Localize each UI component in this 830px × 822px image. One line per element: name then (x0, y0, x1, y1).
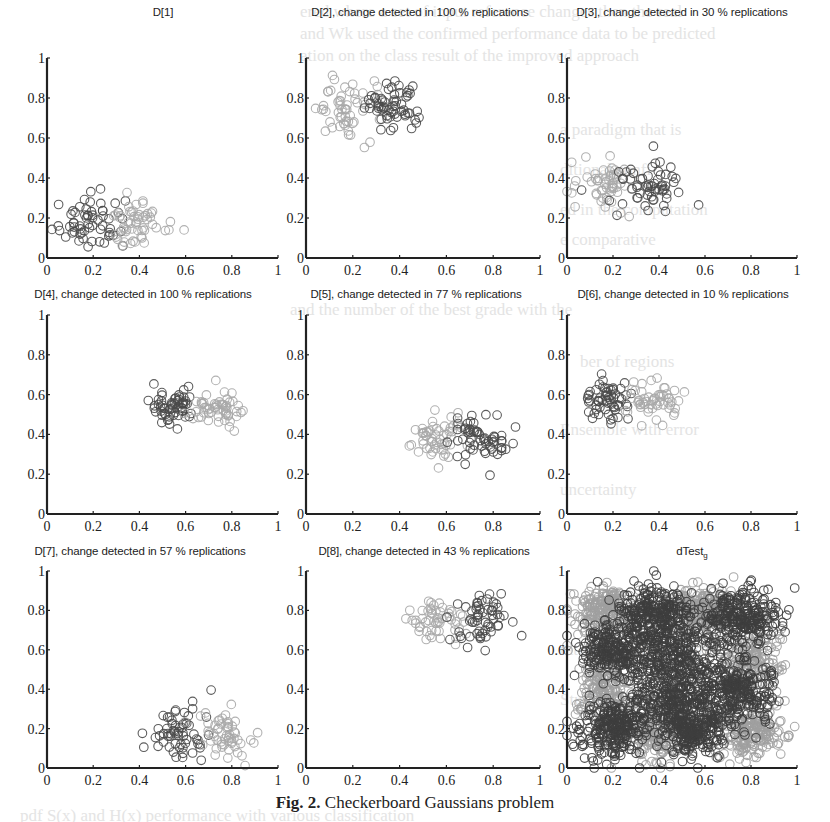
y-tick-label: 1 (297, 51, 304, 66)
x-tick-label: 0.2 (344, 519, 362, 534)
panel-title-d6: D[6], change detected in 10 % replicatio… (577, 288, 788, 300)
x-tick-label: 0.6 (438, 519, 456, 534)
scatter-points (583, 370, 688, 430)
y-tick-label: 0.6 (287, 388, 305, 403)
y-tick-label: 0.2 (28, 722, 46, 737)
y-tick-label: 0.2 (28, 467, 46, 482)
scatter-panel-d5: 00.20.40.60.8100.20.40.60.81 (287, 308, 544, 534)
scatter-points (405, 406, 520, 480)
figure: 00.20.40.60.8100.20.40.60.8100.20.40.60.… (0, 0, 830, 800)
y-tick-label: 0.8 (287, 603, 305, 618)
panel-title-d7: D[7], change detected in 57 % replicatio… (34, 545, 245, 557)
x-tick-label: 0.4 (391, 519, 409, 534)
x-tick-label: 0.6 (177, 263, 195, 278)
x-tick-label: 0.8 (223, 773, 241, 788)
y-tick-label: 0 (297, 507, 304, 522)
x-tick-label: 0.2 (84, 773, 102, 788)
x-tick-label: 0.8 (742, 773, 760, 788)
x-tick-label: 1 (794, 263, 801, 278)
y-tick-label: 1 (558, 308, 565, 323)
y-tick-label: 0.4 (28, 171, 46, 186)
x-tick-label: 1 (537, 263, 544, 278)
x-tick-label: 0.8 (742, 519, 760, 534)
y-tick-label: 0 (38, 507, 45, 522)
y-tick-label: 0.6 (287, 131, 305, 146)
x-tick-label: 1 (275, 263, 282, 278)
y-tick-label: 0.6 (548, 131, 566, 146)
y-tick-label: 0.6 (548, 388, 566, 403)
y-tick-label: 0 (558, 251, 565, 266)
y-tick-label: 0.2 (548, 722, 566, 737)
x-tick-label: 0.8 (223, 519, 241, 534)
y-tick-label: 0 (558, 761, 565, 776)
y-tick-label: 0.2 (548, 211, 566, 226)
scatter-panel-d6: 00.20.40.60.8100.20.40.60.81 (548, 308, 801, 534)
scatter-panel-d7: 00.20.40.60.8100.20.40.60.81 (28, 564, 282, 788)
y-tick-label: 1 (297, 564, 304, 579)
x-tick-label: 0.4 (131, 773, 149, 788)
x-tick-label: 0.6 (696, 519, 714, 534)
y-tick-label: 0.4 (548, 682, 566, 697)
y-tick-label: 0 (38, 761, 45, 776)
y-tick-label: 0.8 (28, 91, 46, 106)
y-tick-label: 0.4 (28, 682, 46, 697)
x-tick-label: 1 (537, 773, 544, 788)
y-tick-label: 0.6 (28, 131, 46, 146)
y-tick-label: 0 (38, 251, 45, 266)
y-tick-label: 0.2 (287, 467, 305, 482)
x-tick-label: 1 (537, 519, 544, 534)
y-tick-label: 0.6 (28, 388, 46, 403)
caption-label: Fig. 2. (276, 793, 321, 812)
x-tick-label: 0.2 (604, 519, 622, 534)
x-tick-label: 1 (794, 519, 801, 534)
y-tick-label: 0.2 (287, 722, 305, 737)
scatter-points (563, 142, 703, 221)
scatter-points (48, 185, 189, 252)
y-tick-label: 0.8 (548, 91, 566, 106)
x-tick-label: 0.2 (604, 263, 622, 278)
y-tick-label: 0.8 (548, 603, 566, 618)
panel-title-dtest: dTestg (676, 545, 707, 560)
y-tick-label: 0.4 (548, 171, 566, 186)
y-tick-label: 0.2 (287, 211, 305, 226)
y-tick-label: 0.6 (28, 643, 46, 658)
x-tick-label: 0.8 (223, 263, 241, 278)
y-tick-label: 0.8 (548, 348, 566, 363)
x-tick-label: 1 (794, 773, 801, 788)
y-tick-label: 0.4 (287, 171, 305, 186)
y-tick-label: 0.4 (287, 427, 305, 442)
scatter-points (563, 567, 799, 773)
x-tick-label: 0.4 (650, 519, 668, 534)
x-tick-label: 0.4 (391, 263, 409, 278)
y-tick-label: 1 (558, 564, 565, 579)
y-tick-label: 0.8 (28, 603, 46, 618)
x-tick-label: 1 (275, 519, 282, 534)
y-tick-label: 0.8 (287, 91, 305, 106)
x-tick-label: 0.2 (84, 263, 102, 278)
y-tick-label: 1 (38, 308, 45, 323)
x-tick-label: 0.2 (344, 263, 362, 278)
y-tick-label: 1 (558, 51, 565, 66)
x-tick-label: 0.8 (742, 263, 760, 278)
x-tick-label: 0.6 (438, 773, 456, 788)
panel-title-d1: D[1] (153, 6, 174, 18)
scatter-panel-d8: 00.20.40.60.8100.20.40.60.81 (287, 564, 544, 788)
scatter-grid: 00.20.40.60.8100.20.40.60.8100.20.40.60.… (0, 0, 830, 800)
x-tick-label: 0.6 (696, 263, 714, 278)
panel-title-d2: D[2], change detected in 100 % replicati… (311, 6, 529, 18)
y-tick-label: 0.2 (548, 467, 566, 482)
y-tick-label: 0.4 (28, 427, 46, 442)
x-tick-label: 0.2 (604, 773, 622, 788)
scatter-points (138, 686, 262, 770)
x-tick-label: 0.8 (484, 263, 502, 278)
panel-title-d8: D[8], change detected in 43 % replicatio… (318, 545, 529, 557)
y-tick-label: 0.2 (28, 211, 46, 226)
y-tick-label: 1 (297, 308, 304, 323)
panel-title-d5: D[5], change detected in 77 % replicatio… (310, 288, 521, 300)
x-tick-label: 0.6 (696, 773, 714, 788)
x-tick-label: 0.2 (84, 519, 102, 534)
x-tick-label: 0.4 (391, 773, 409, 788)
y-tick-label: 0.4 (548, 427, 566, 442)
figure-caption: Fig. 2. Checkerboard Gaussians problem (0, 793, 830, 813)
x-tick-label: 1 (275, 773, 282, 788)
